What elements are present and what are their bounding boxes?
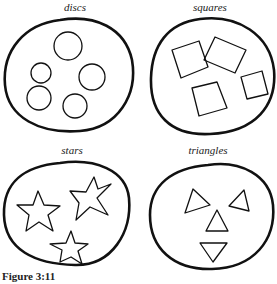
square-shapes [172,37,268,116]
figure-canvas [0,0,277,284]
stars-boundary [4,162,129,265]
disc-shapes [27,32,105,118]
star-shapes [17,177,111,264]
triangles-boundary [150,164,273,269]
discs-boundary [5,19,133,132]
squares-boundary [151,18,274,134]
figure-caption: Figure 3:11 [2,270,55,282]
triangle-shapes [185,189,249,262]
